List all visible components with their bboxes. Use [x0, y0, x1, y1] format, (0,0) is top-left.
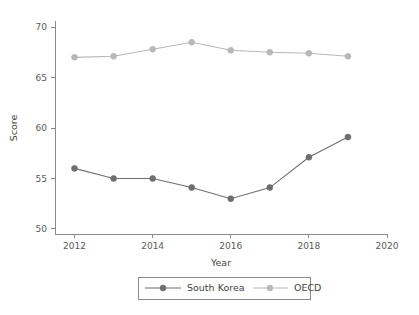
legend-marker	[267, 285, 273, 291]
x-axis-title: Year	[210, 257, 231, 268]
data-point	[189, 39, 195, 45]
series-container	[72, 39, 351, 201]
series-oecd	[72, 39, 351, 60]
legend-item-oecd[interactable]: OECD	[253, 282, 321, 293]
data-point	[267, 49, 273, 55]
data-point	[111, 175, 117, 181]
data-point	[228, 47, 234, 53]
data-point	[150, 175, 156, 181]
y-axis-title: Score	[8, 115, 19, 142]
data-point	[189, 185, 195, 191]
data-point	[345, 134, 351, 140]
y-tick-label: 60	[36, 123, 48, 133]
data-point	[267, 185, 273, 191]
data-point	[228, 196, 234, 202]
legend-label: South Korea	[187, 282, 245, 293]
data-point	[72, 165, 78, 171]
legend-marker	[160, 285, 166, 291]
data-point	[111, 53, 117, 59]
y-axis: 5055606570	[36, 21, 55, 234]
series-south-korea	[72, 134, 351, 202]
data-point	[306, 50, 312, 56]
line-chart: 5055606570 20122014201620182020 YearScor…	[0, 0, 419, 315]
data-point	[72, 54, 78, 60]
x-tick-label: 2016	[219, 241, 242, 251]
series-line	[75, 137, 348, 199]
y-tick-label: 55	[36, 174, 47, 184]
y-tick-label: 65	[36, 73, 47, 83]
chart-canvas: 5055606570 20122014201620182020 YearScor…	[0, 0, 419, 315]
data-point	[306, 154, 312, 160]
chart-legend: South KoreaOECD	[138, 277, 321, 299]
x-tick-label: 2020	[376, 241, 399, 251]
x-axis: 20122014201620182020	[55, 234, 399, 251]
legend-label: OECD	[294, 282, 321, 293]
x-tick-label: 2014	[141, 241, 164, 251]
data-point	[150, 46, 156, 52]
x-tick-label: 2018	[297, 241, 320, 251]
y-tick-label: 70	[36, 22, 48, 32]
axis-titles: YearScore	[8, 115, 231, 268]
legend-item-south-korea[interactable]: South Korea	[145, 282, 245, 293]
x-tick-label: 2012	[63, 241, 86, 251]
data-point	[345, 53, 351, 59]
y-tick-label: 50	[36, 224, 48, 234]
